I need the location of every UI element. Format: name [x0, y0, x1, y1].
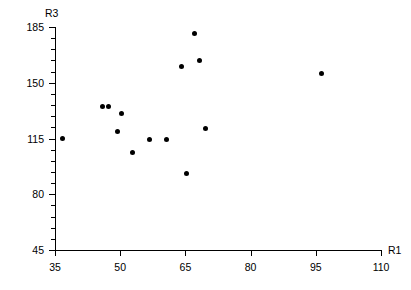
x-axis-tick-label: 80 — [231, 262, 271, 272]
y-axis-tick-label: 80 — [18, 189, 44, 199]
y-axis-tick-minor — [51, 105, 55, 106]
x-axis-tick-label: 95 — [296, 262, 336, 272]
data-point — [192, 31, 197, 36]
y-axis-tick-major — [49, 194, 55, 195]
y-axis-tick-minor — [51, 127, 55, 128]
data-point — [197, 58, 202, 63]
x-axis-title: R1 — [388, 245, 401, 256]
y-axis-tick-minor — [51, 150, 55, 151]
data-point — [119, 111, 124, 116]
y-axis-tick-minor — [51, 228, 55, 229]
y-axis-tick-minor — [51, 161, 55, 162]
y-axis-tick-minor — [51, 38, 55, 39]
x-axis-tick-major — [251, 250, 252, 256]
data-point — [164, 137, 169, 142]
x-axis-tick-label: 50 — [100, 262, 140, 272]
data-point — [130, 150, 135, 155]
y-axis-tick-major — [49, 139, 55, 140]
y-axis-tick-major — [49, 27, 55, 28]
y-axis-tick-label: 45 — [18, 245, 44, 255]
data-point — [60, 136, 65, 141]
data-point — [203, 126, 208, 131]
y-axis-tick-minor — [51, 116, 55, 117]
data-point — [179, 64, 184, 69]
x-axis-tick-major — [381, 250, 382, 256]
y-axis-title: R3 — [45, 8, 58, 19]
data-point — [115, 129, 120, 134]
x-axis-line — [55, 250, 381, 251]
data-point — [106, 104, 111, 109]
y-axis-tick-minor — [51, 239, 55, 240]
x-axis-tick-label: 35 — [35, 262, 75, 272]
y-axis-tick-minor — [51, 60, 55, 61]
y-axis-tick-minor — [51, 72, 55, 73]
x-axis-tick-major — [185, 250, 186, 256]
x-axis-tick-major — [55, 250, 56, 256]
x-axis-tick-major — [120, 250, 121, 256]
data-point — [147, 137, 152, 142]
y-axis-tick-minor — [51, 217, 55, 218]
scatter-plot-figure: R3 R1 4580115150185 3550658095110 — [0, 0, 411, 290]
y-axis-tick-minor — [51, 49, 55, 50]
data-point — [184, 171, 189, 176]
y-axis-tick-label: 185 — [18, 22, 44, 32]
data-point — [319, 71, 324, 76]
plot-area: R3 R1 4580115150185 3550658095110 — [0, 0, 411, 290]
y-axis-tick-minor — [51, 183, 55, 184]
y-axis-tick-major — [49, 83, 55, 84]
x-axis-tick-label: 65 — [165, 262, 205, 272]
y-axis-line — [55, 27, 56, 250]
y-axis-tick-minor — [51, 172, 55, 173]
data-point — [100, 104, 105, 109]
x-axis-tick-label: 110 — [361, 262, 401, 272]
y-axis-tick-label: 150 — [18, 78, 44, 88]
y-axis-tick-minor — [51, 205, 55, 206]
y-axis-tick-minor — [51, 94, 55, 95]
y-axis-tick-label: 115 — [18, 134, 44, 144]
x-axis-tick-major — [316, 250, 317, 256]
